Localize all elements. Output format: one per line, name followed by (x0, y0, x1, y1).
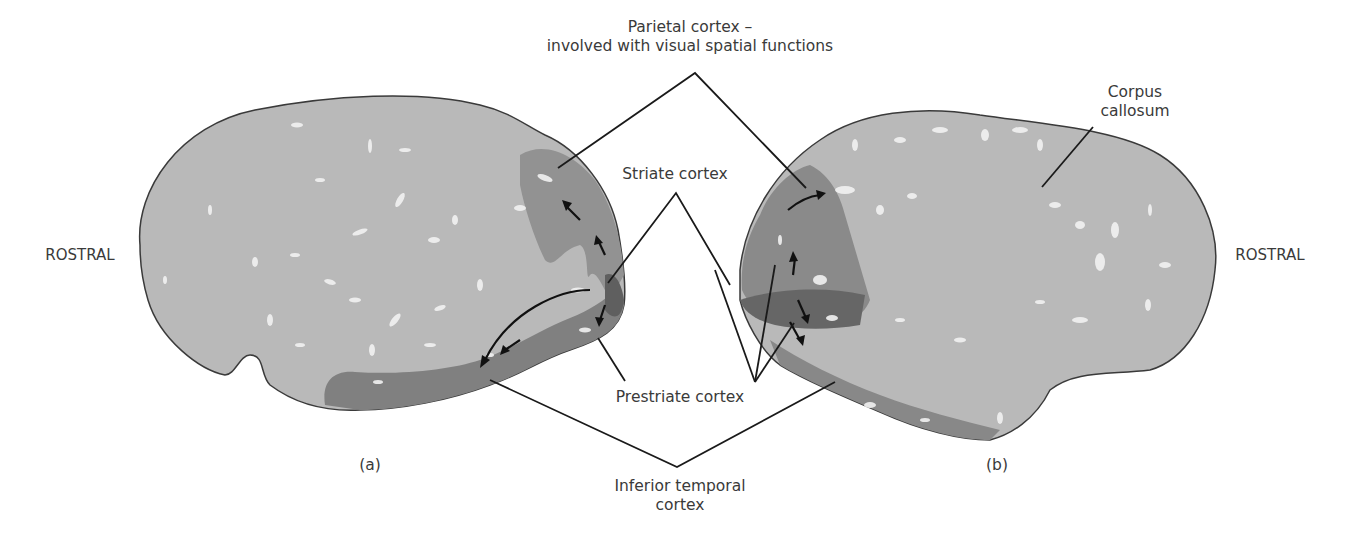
rostral-label-right: ROSTRAL (1222, 246, 1318, 265)
rostral-label-left: ROSTRAL (32, 246, 128, 265)
panel-a-label: (a) (350, 456, 390, 475)
prestriate-cortex-label: Prestriate cortex (605, 388, 755, 407)
corpus-callosum-label: Corpus callosum (1085, 83, 1185, 121)
brain-medial-view (740, 111, 1216, 440)
brain-lateral-view (140, 96, 625, 410)
diagram-canvas (0, 0, 1350, 539)
parietal-cortex-description: involved with visual spatial functions (540, 37, 840, 56)
striate-cortex-label: Striate cortex (600, 165, 750, 184)
parietal-label-line2: involved with visual spatial functions (540, 37, 840, 56)
corpus-callosum-line2: callosum (1085, 102, 1185, 121)
inferior-temporal-cortex-label: Inferior temporal cortex (600, 477, 760, 515)
inferior-temporal-line1: Inferior temporal (600, 477, 760, 496)
inferior-temporal-line2: cortex (600, 496, 760, 515)
parietal-cortex-label: Parietal cortex – (590, 18, 790, 37)
panel-b-label: (b) (977, 456, 1017, 475)
corpus-callosum-line1: Corpus (1085, 83, 1185, 102)
parietal-label-line1: Parietal cortex – (590, 18, 790, 37)
